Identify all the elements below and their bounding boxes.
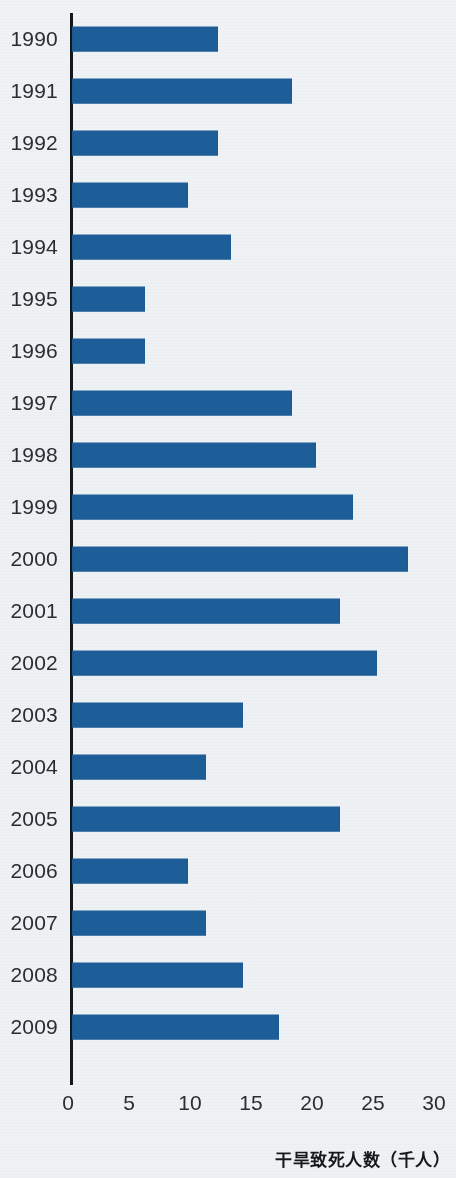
bar [72,755,206,780]
bar-category-label: 1995 [0,287,58,311]
bar-track [72,703,456,728]
bar-category-label: 2006 [0,859,58,883]
bar-category-label: 2008 [0,963,58,987]
bar-row: 1992 [0,117,456,169]
bar-row: 1999 [0,481,456,533]
bar-track [72,495,456,520]
bar-row: 2009 [0,1001,456,1053]
bar-row: 1994 [0,221,456,273]
bar-category-label: 2002 [0,651,58,675]
bar-row: 1995 [0,273,456,325]
bar-track [72,807,456,832]
bar-track [72,755,456,780]
x-tick-label: 15 [239,1091,262,1115]
bar-row: 2002 [0,637,456,689]
bar-row: 2006 [0,845,456,897]
bar-category-label: 1996 [0,339,58,363]
bar [72,963,243,988]
bar-category-label: 1998 [0,443,58,467]
bar [72,287,145,312]
bar [72,651,377,676]
bar-row: 2000 [0,533,456,585]
bar-category-label: 1994 [0,235,58,259]
x-tick-label: 5 [123,1091,135,1115]
bar-track [72,963,456,988]
bar-category-label: 2001 [0,599,58,623]
bar-category-label: 1999 [0,495,58,519]
x-tick-label: 0 [62,1091,74,1115]
bar-category-label: 2003 [0,703,58,727]
bar-track [72,443,456,468]
bar-track [72,235,456,260]
x-tick-label: 10 [178,1091,201,1115]
bar-track [72,183,456,208]
bar-track [72,859,456,884]
x-tick-label: 25 [361,1091,384,1115]
bar-category-label: 1990 [0,27,58,51]
bar-row: 2004 [0,741,456,793]
bar [72,183,188,208]
bar [72,339,145,364]
bar [72,235,231,260]
bar-row: 1993 [0,169,456,221]
bar-category-label: 1991 [0,79,58,103]
bar [72,495,353,520]
plot-area: 1990199119921993199419951996199719981999… [0,0,456,1090]
bar-row: 1998 [0,429,456,481]
bar [72,599,340,624]
bar-track [72,131,456,156]
bar [72,391,292,416]
bar [72,79,292,104]
x-axis: 051015202530 [0,1085,456,1125]
bar-track [72,287,456,312]
bar [72,1015,279,1040]
bar-track [72,27,456,52]
bar-track [72,339,456,364]
bar-category-label: 1992 [0,131,58,155]
x-tick-label: 30 [422,1091,445,1115]
bar-chart: 1990199119921993199419951996199719981999… [0,0,456,1178]
bar-rows: 1990199119921993199419951996199719981999… [0,13,456,1053]
bar-track [72,391,456,416]
bar [72,27,218,52]
bar-category-label: 1993 [0,183,58,207]
bar-track [72,599,456,624]
bar-row: 2007 [0,897,456,949]
bar [72,911,206,936]
bar-category-label: 2007 [0,911,58,935]
bar [72,131,218,156]
bar-track [72,911,456,936]
bar-category-label: 2009 [0,1015,58,1039]
bar-row: 2003 [0,689,456,741]
bar-row: 1997 [0,377,456,429]
bar-row: 2008 [0,949,456,1001]
bar-category-label: 1997 [0,391,58,415]
x-axis-caption: 干旱致死人数（千人） [275,1146,450,1171]
bar-row: 2005 [0,793,456,845]
bar-category-label: 2004 [0,755,58,779]
bar [72,547,408,572]
bar-track [72,651,456,676]
bar-row: 2001 [0,585,456,637]
bar [72,443,316,468]
bar-category-label: 2000 [0,547,58,571]
bar-row: 1990 [0,13,456,65]
bar [72,703,243,728]
bar-row: 1996 [0,325,456,377]
bar-row: 1991 [0,65,456,117]
bar [72,807,340,832]
x-tick-label: 20 [300,1091,323,1115]
bar [72,859,188,884]
bar-track [72,79,456,104]
bar-track [72,1015,456,1040]
bar-category-label: 2005 [0,807,58,831]
bar-track [72,547,456,572]
